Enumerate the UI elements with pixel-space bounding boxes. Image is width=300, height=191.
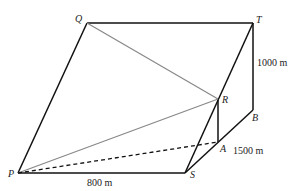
- edge-SB: [185, 110, 253, 173]
- label-P: P: [7, 168, 14, 179]
- label-T: T: [256, 14, 263, 25]
- line-PR: [18, 99, 218, 173]
- measure-PS: 800 m: [87, 177, 113, 188]
- label-B: B: [252, 112, 258, 123]
- measure-SB: 1500 m: [233, 145, 264, 156]
- edge-PQ: [18, 23, 87, 173]
- measure-TB: 1000 m: [257, 57, 288, 68]
- label-Q: Q: [75, 13, 83, 24]
- label-R: R: [221, 94, 228, 105]
- label-A: A: [219, 143, 227, 154]
- line-QR: [87, 23, 218, 99]
- geometry-diagram: P Q T B S R A 1000 m 1500 m 800 m: [0, 0, 300, 191]
- label-S: S: [190, 169, 195, 180]
- line-PA-dashed: [18, 142, 218, 173]
